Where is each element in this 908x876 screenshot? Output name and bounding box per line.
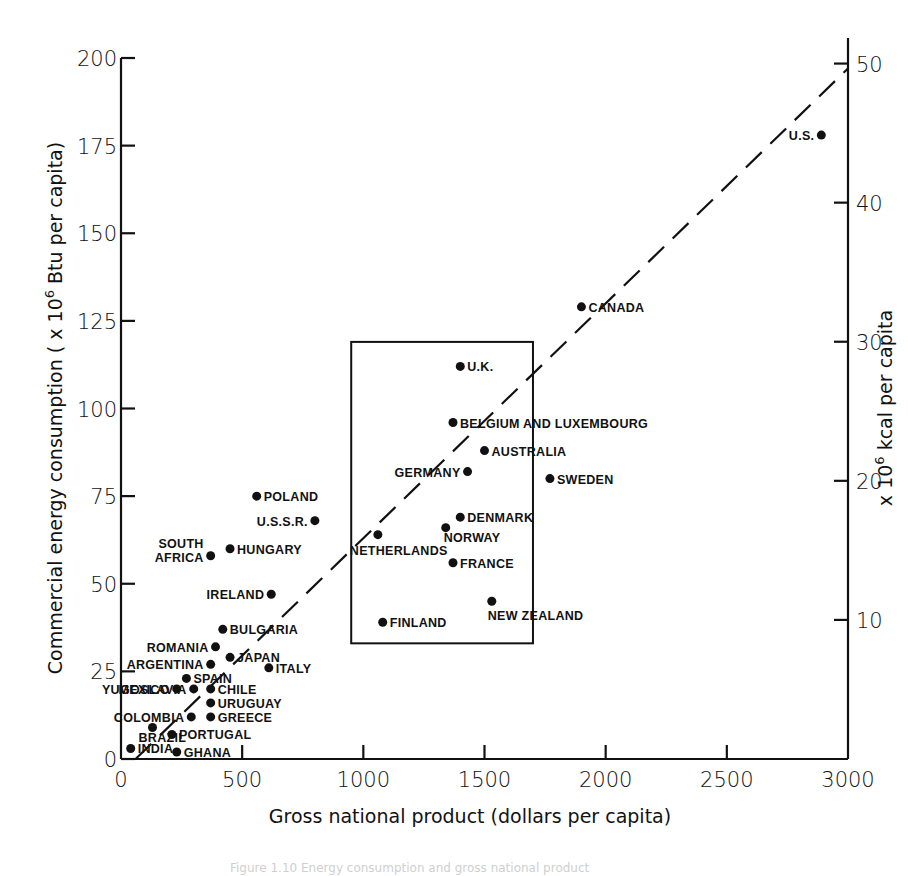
point-label: YUGOSLAVIA <box>102 683 187 697</box>
scatter-chart: 0255075100125150175200050010001500200025… <box>0 0 908 876</box>
data-point <box>456 362 465 371</box>
point-label: FINLAND <box>390 616 447 630</box>
point-label: CANADA <box>588 301 644 315</box>
y-tick-label: 50 <box>90 573 117 597</box>
data-point <box>206 712 215 721</box>
y-tick-label: 175 <box>77 135 117 159</box>
point-label: INDIA <box>138 742 174 756</box>
y2-axis-title: x 106 kcal per capita <box>872 310 896 506</box>
y-axis-title: Commercial energy consumption ( x 106 Bt… <box>42 142 66 674</box>
point-label: GHANA <box>184 746 231 760</box>
data-point <box>226 653 235 662</box>
point-label: ITALY <box>276 662 312 676</box>
data-point <box>226 544 235 553</box>
point-label: SOUTH <box>158 537 203 551</box>
point-label: NORWAY <box>444 531 501 545</box>
highlight-rect <box>351 342 533 643</box>
data-point <box>264 663 273 672</box>
x-tick-label: 500 <box>222 768 262 792</box>
point-label: DENMARK <box>467 511 533 525</box>
point-label: SWEDEN <box>557 473 614 487</box>
point-label: NEW ZEALAND <box>488 609 584 623</box>
data-point <box>448 418 457 427</box>
x-tick-label: 1000 <box>337 768 390 792</box>
data-point <box>126 744 135 753</box>
data-point <box>577 302 586 311</box>
data-point <box>463 467 472 476</box>
data-point <box>172 747 181 756</box>
data-point <box>182 674 191 683</box>
x-axis-title: Gross national product (dollars per capi… <box>269 805 671 827</box>
point-label: GREECE <box>218 711 273 725</box>
x-tick-label: 1500 <box>458 768 511 792</box>
data-point <box>206 551 215 560</box>
y2-tick-label: 50 <box>856 53 883 77</box>
data-point <box>167 730 176 739</box>
point-label: IRELAND <box>207 588 265 602</box>
point-label: COLOMBIA <box>114 711 184 725</box>
data-point <box>211 642 220 651</box>
data-point <box>448 558 457 567</box>
data-points: U.S.CANADAU.K.BELGIUM AND LUXEMBOURGAUST… <box>102 129 826 760</box>
data-point <box>817 131 826 140</box>
data-point <box>378 618 387 627</box>
data-point <box>252 492 261 501</box>
y2-tick-label: 10 <box>856 609 883 633</box>
x-tick-label: 2000 <box>579 768 632 792</box>
y-tick-label: 125 <box>77 310 117 334</box>
data-point <box>545 474 554 483</box>
point-label: CHILE <box>218 683 257 697</box>
point-label: ARGENTINA <box>127 658 204 672</box>
point-label: AUSTRALIA <box>492 445 567 459</box>
data-point <box>373 530 382 539</box>
point-label: AFRICA <box>155 551 204 565</box>
y-tick-label: 100 <box>77 398 117 422</box>
point-label: PORTUGAL <box>179 728 252 742</box>
y-tick-label: 200 <box>77 47 117 71</box>
point-label: ROMANIA <box>147 641 209 655</box>
figure-caption: Figure 1.10 Energy consumption and gross… <box>230 861 590 875</box>
point-label: BULGARIA <box>230 623 298 637</box>
highlight-box <box>351 342 533 643</box>
point-label: U.K. <box>467 360 493 374</box>
data-point <box>456 513 465 522</box>
y2-tick-label: 40 <box>856 192 883 216</box>
point-label: U.S. <box>789 129 815 143</box>
point-label: FRANCE <box>460 557 514 571</box>
data-point <box>310 516 319 525</box>
x-tick-label: 0 <box>114 768 127 792</box>
data-point <box>480 446 489 455</box>
y-tick-label: 150 <box>77 222 117 246</box>
point-label: JAPAN <box>237 651 280 665</box>
y-tick-label: 75 <box>90 485 117 509</box>
point-label: GERMANY <box>395 466 461 480</box>
data-point <box>187 712 196 721</box>
data-point <box>189 684 198 693</box>
data-point <box>206 660 215 669</box>
x-tick-label: 2500 <box>700 768 753 792</box>
data-point <box>267 590 276 599</box>
point-label: URUGUAY <box>218 697 283 711</box>
data-point <box>487 597 496 606</box>
data-point <box>206 684 215 693</box>
point-label: POLAND <box>264 490 319 504</box>
y-tick-label: 25 <box>90 660 117 684</box>
point-label: NETHERLANDS <box>350 544 448 558</box>
point-label: U.S.S.R. <box>257 515 308 529</box>
point-label: BELGIUM AND LUXEMBOURG <box>460 417 648 431</box>
data-point <box>218 625 227 634</box>
data-point <box>206 698 215 707</box>
x-tick-label: 3000 <box>821 768 874 792</box>
point-label: HUNGARY <box>237 543 302 557</box>
